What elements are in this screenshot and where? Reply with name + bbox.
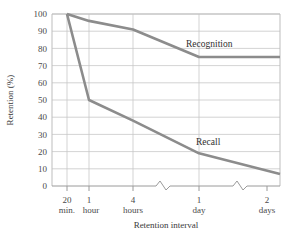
y-tick-0: 0	[43, 181, 48, 191]
y-tick-40: 40	[38, 112, 48, 122]
chart-svg: 100 90 80 70 60 50 40 30 20 10 0 Retenti…	[0, 0, 288, 238]
y-axis-tick-labels: 100 90 80 70 60 50 40 30 20 10 0	[34, 9, 48, 191]
y-tick-30: 30	[38, 130, 48, 140]
x-tick-20min-bot: min.	[59, 205, 75, 215]
x-tick-4hours-bot: hours	[123, 205, 143, 215]
y-tick-60: 60	[38, 78, 48, 88]
x-tick-1day-top: 1	[197, 195, 202, 205]
retention-chart-figure: 100 90 80 70 60 50 40 30 20 10 0 Retenti…	[0, 0, 288, 238]
x-tick-1day-bot: day	[193, 205, 206, 215]
x-tick-4hours-top: 4	[131, 195, 136, 205]
y-tick-90: 90	[38, 26, 48, 36]
x-tick-20min-top: 20	[63, 195, 73, 205]
y-tick-80: 80	[38, 44, 48, 54]
y-tick-70: 70	[38, 61, 48, 71]
y-axis-title: Retention (%)	[5, 75, 15, 126]
y-tick-10: 10	[38, 164, 48, 174]
y-tick-50: 50	[38, 95, 48, 105]
x-tick-1hour-top: 1	[87, 195, 92, 205]
x-axis-title: Retention interval	[134, 220, 199, 230]
x-tick-1hour-bot: hour	[83, 205, 100, 215]
x-tick-2days-bot: days	[259, 205, 276, 215]
x-axis-tick-labels: 20 min. 1 hour 4 hours 1 day 2 days	[59, 195, 276, 215]
y-tick-100: 100	[34, 9, 48, 19]
series-label-recognition: Recognition	[186, 39, 233, 49]
series-label-recall: Recall	[196, 137, 221, 147]
x-tick-2days-top: 2	[265, 195, 270, 205]
y-tick-20: 20	[38, 147, 48, 157]
